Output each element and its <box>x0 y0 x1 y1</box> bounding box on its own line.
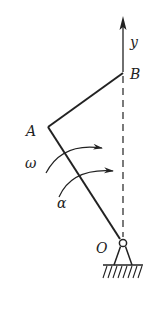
link-AB <box>48 73 123 127</box>
label-B: B <box>129 66 140 82</box>
support-triangle <box>114 247 132 266</box>
label-O: O <box>96 240 108 256</box>
label-omega: ω <box>25 155 37 171</box>
label-A: A <box>24 123 36 139</box>
alpha-arc <box>59 171 113 197</box>
diagram-canvas: y B A ω α O <box>0 0 155 318</box>
label-y: y <box>129 34 139 50</box>
ground-hatch <box>103 266 142 278</box>
pivot-O <box>119 239 126 246</box>
label-alpha: α <box>57 195 67 211</box>
link-OA <box>48 127 120 239</box>
mechanism-diagram: y B A ω α O <box>0 0 155 318</box>
